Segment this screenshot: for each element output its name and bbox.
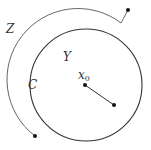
diagram-canvas: Z Y C x0 <box>0 0 151 150</box>
outer-arc-z <box>7 8 128 136</box>
label-x0-sub: 0 <box>85 74 90 83</box>
arc-end-dot-top <box>126 8 130 12</box>
segment-end-dot <box>112 103 116 107</box>
label-x0: x0 <box>78 68 90 83</box>
arc-end-dot-bottom <box>33 134 37 138</box>
segment-from-x0 <box>85 85 114 105</box>
label-y: Y <box>63 50 72 64</box>
x0-dot <box>83 83 87 87</box>
label-z: Z <box>5 22 15 36</box>
label-c: C <box>28 78 37 92</box>
